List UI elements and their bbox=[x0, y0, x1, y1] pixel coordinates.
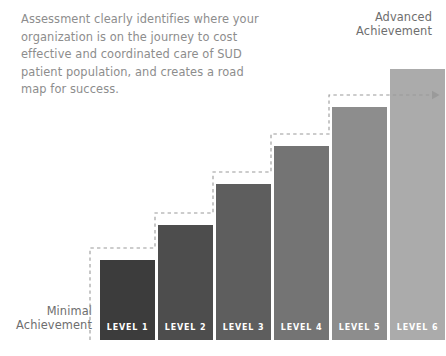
bar-rect bbox=[216, 184, 271, 340]
bar-label: LEVEL 4 bbox=[281, 323, 323, 332]
bar-6[interactable]: LEVEL 6 bbox=[390, 69, 445, 340]
bar-rect bbox=[274, 146, 329, 340]
bar-rect bbox=[332, 107, 387, 340]
bar-3[interactable]: LEVEL 3 bbox=[216, 184, 271, 340]
bar-5[interactable]: LEVEL 5 bbox=[332, 107, 387, 340]
bar-4[interactable]: LEVEL 4 bbox=[274, 146, 329, 340]
bar-label: LEVEL 6 bbox=[397, 323, 439, 332]
bar-1[interactable]: LEVEL 1 bbox=[100, 260, 155, 340]
bar-2[interactable]: LEVEL 2 bbox=[158, 225, 213, 340]
bar-label: LEVEL 3 bbox=[223, 323, 265, 332]
bar-label: LEVEL 1 bbox=[107, 323, 149, 332]
maturity-staircase-chart: LEVEL 1LEVEL 2LEVEL 3LEVEL 4LEVEL 5LEVEL… bbox=[0, 0, 446, 356]
infographic-canvas: Assessment clearly identifies where your… bbox=[0, 0, 446, 356]
bar-label: LEVEL 5 bbox=[339, 323, 381, 332]
bar-rect bbox=[390, 69, 445, 340]
bar-label: LEVEL 2 bbox=[165, 323, 207, 332]
bars-group: LEVEL 1LEVEL 2LEVEL 3LEVEL 4LEVEL 5LEVEL… bbox=[100, 69, 445, 340]
